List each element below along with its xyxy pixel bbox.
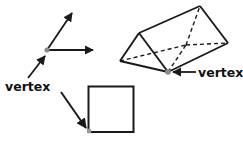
right-vertex-label: vertex <box>198 65 243 80</box>
prism-edge-top-ridge <box>139 6 200 33</box>
pointer-to-angle-vertex <box>28 56 45 78</box>
angle-shape <box>44 13 93 53</box>
angle-ray-diagonal <box>47 13 72 50</box>
diagram-canvas: vertex vertex <box>0 0 243 142</box>
prism-edge-back-top-right <box>200 6 228 43</box>
vertex-diagram: vertex vertex <box>0 0 243 142</box>
left-vertex-label: vertex <box>5 79 50 94</box>
square-vertex-dot <box>87 129 92 134</box>
square-shape <box>87 87 134 134</box>
prism-vertex-dot <box>165 69 171 75</box>
square-outline <box>89 87 134 133</box>
angle-vertex-dot <box>44 47 49 52</box>
prism-hidden-edge-back-right <box>186 43 228 45</box>
pointer-to-square-vertex <box>61 92 86 128</box>
